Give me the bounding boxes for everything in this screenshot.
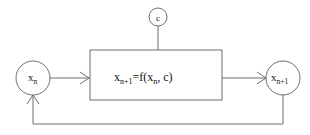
process-block[interactable] (90, 50, 222, 100)
parameter-node-label: c (156, 13, 160, 23)
block-diagram-canvas: xn+1=f(xn, c) c xn xn+1 (0, 0, 310, 135)
equation-rhs-prefix: f(x (139, 70, 153, 84)
diagram-svg-surface: xn+1=f(xn, c) c xn xn+1 (0, 0, 310, 135)
connector-feedback-loop (33, 95, 283, 124)
equation-lhs-subscript: n+1 (120, 77, 133, 86)
input-node-label: xn (28, 71, 38, 86)
input-label-subscript: n (34, 77, 38, 86)
equation-rhs-suffix: , c) (157, 70, 172, 84)
output-label-subscript: n+1 (277, 77, 289, 86)
output-node-label: xn+1 (271, 71, 288, 86)
process-equation: xn+1=f(xn, c) (114, 70, 173, 86)
